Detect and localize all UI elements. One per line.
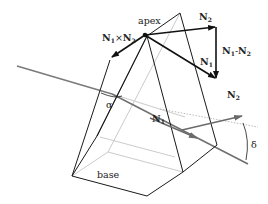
n1-minus-n2-label: N1-N2 bbox=[222, 46, 251, 57]
emerging-ray bbox=[112, 94, 248, 164]
alpha-label: α bbox=[106, 100, 112, 110]
delta-label: δ bbox=[251, 140, 257, 150]
base-label: base bbox=[97, 170, 119, 180]
n2-exit-label: N2 bbox=[227, 90, 240, 101]
n2-top-label: N2 bbox=[199, 12, 212, 23]
delta-arc bbox=[243, 123, 247, 160]
n1-inner-label: N1 bbox=[152, 114, 165, 125]
apex-label: apex bbox=[138, 16, 161, 26]
n1-right-label: N1 bbox=[200, 57, 213, 68]
front-face-left-edge bbox=[72, 60, 110, 176]
incoming-ray bbox=[17, 66, 112, 94]
n1-cross-n2-label: N1×N2 bbox=[102, 33, 136, 44]
prism-diagram bbox=[0, 0, 268, 204]
n2-vector bbox=[145, 27, 215, 35]
